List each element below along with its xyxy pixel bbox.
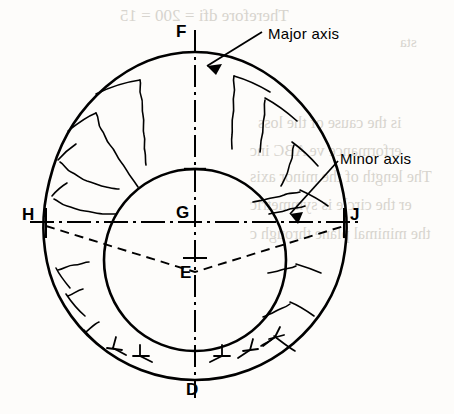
point-label-D: D: [186, 380, 198, 400]
point-label-H: H: [22, 205, 34, 225]
point-label-E: E: [180, 263, 191, 283]
fracture-diagram-svg: [0, 0, 454, 414]
point-label-G: G: [176, 203, 189, 223]
point-label-F: F: [176, 22, 186, 42]
crack-marks-upper-right: [232, 76, 328, 214]
callout-label-minor-axis: Minor axis: [340, 150, 411, 167]
point-label-J: J: [350, 205, 359, 225]
figure-canvas: Therefore dfi = 200 = 15stais the cause …: [0, 0, 454, 414]
callout-label-major-axis: Major axis: [268, 25, 339, 42]
